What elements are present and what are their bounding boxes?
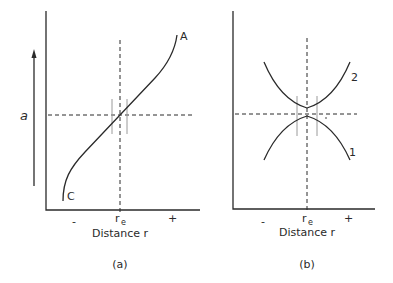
y-axis-indicator: a bbox=[20, 49, 37, 186]
svg-text:r: r bbox=[115, 212, 120, 225]
panel-a: A C - r e + Distance r (a) bbox=[46, 11, 200, 271]
panel-a-label-A: A bbox=[180, 30, 188, 43]
panel-a-axes bbox=[46, 11, 200, 210]
panel-a-tick-plus: + bbox=[168, 212, 177, 225]
svg-text:r: r bbox=[302, 212, 307, 225]
y-axis-label: a bbox=[20, 108, 28, 123]
panel-b-label-2: 2 bbox=[351, 71, 358, 84]
panel-a-tick-re: r e bbox=[115, 212, 126, 227]
panel-b-tick-re: r e bbox=[302, 212, 313, 227]
arrow-up-icon bbox=[32, 49, 37, 58]
svg-text:e: e bbox=[121, 218, 126, 227]
panel-a-tick-minus: - bbox=[72, 215, 76, 228]
panel-b-dot bbox=[325, 117, 327, 119]
panel-b-caption: (b) bbox=[299, 258, 315, 271]
panel-b: 2 1 - r e + Distance r (b) bbox=[233, 11, 375, 271]
panel-a-x-axis-label: Distance r bbox=[92, 227, 149, 240]
panel-a-label-C: C bbox=[67, 190, 75, 203]
panel-b-label-1: 1 bbox=[349, 146, 356, 159]
two-panel-diagram: a A C - r e + Distance r (a) 2 1 - r bbox=[0, 0, 393, 283]
panel-b-x-axis-label: Distance r bbox=[279, 226, 336, 239]
panel-b-axes bbox=[233, 11, 375, 209]
panel-b-tick-plus: + bbox=[344, 212, 353, 225]
panel-b-tick-minus: - bbox=[261, 215, 265, 228]
panel-a-caption: (a) bbox=[112, 258, 127, 271]
